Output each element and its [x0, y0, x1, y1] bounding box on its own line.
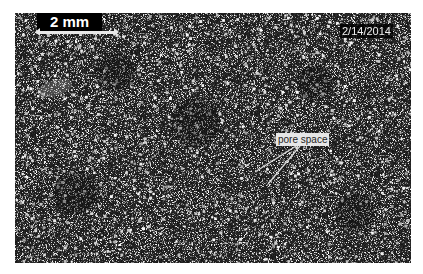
scale-bar-label: 2 mm	[37, 13, 102, 31]
pore-space-label: pore space	[276, 133, 329, 146]
scale-bar-arrow	[37, 31, 117, 34]
grain-texture	[15, 13, 411, 263]
date-stamp: 2/14/2014	[340, 24, 393, 38]
micrograph-image	[15, 13, 411, 263]
